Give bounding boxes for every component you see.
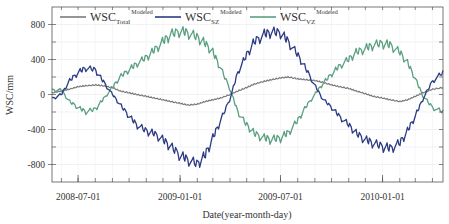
wsc-line-chart: -800-4000400800 2008-07-012009-01-012009… xyxy=(0,0,449,224)
y-tick-label: 0 xyxy=(40,90,45,100)
x-axis-title: Date(year-month-day) xyxy=(202,209,291,221)
data-series xyxy=(52,27,443,168)
legend-item-total: WSCTotalModeled xyxy=(60,9,153,26)
legend-label: WSCTotalModeled xyxy=(90,9,153,26)
x-tick-label: 2010-01-01 xyxy=(360,192,405,202)
y-axis-title: WSC/mm xyxy=(4,75,15,115)
x-tick-label: 2008-07-01 xyxy=(56,192,101,202)
x-tick-label: 2009-01-01 xyxy=(158,192,203,202)
legend-item-sz: WSCSZModeled xyxy=(155,9,242,26)
grid-lines xyxy=(52,7,443,182)
y-tick-label: 400 xyxy=(31,55,46,65)
y-axis-ticks: -800-4000400800 xyxy=(28,20,443,170)
legend-item-vz: WSCVZModeled xyxy=(250,9,338,26)
legend: WSCTotalModeledWSCSZModeledWSCVZModeled xyxy=(60,9,338,26)
y-tick-label: -400 xyxy=(28,125,46,135)
legend-label: WSCVZModeled xyxy=(280,9,338,26)
legend-label: WSCSZModeled xyxy=(185,9,242,26)
vz-series-line xyxy=(52,27,443,145)
y-tick-label: -800 xyxy=(28,160,46,170)
y-tick-label: 800 xyxy=(31,20,46,30)
x-tick-label: 2009-07-01 xyxy=(258,192,303,202)
